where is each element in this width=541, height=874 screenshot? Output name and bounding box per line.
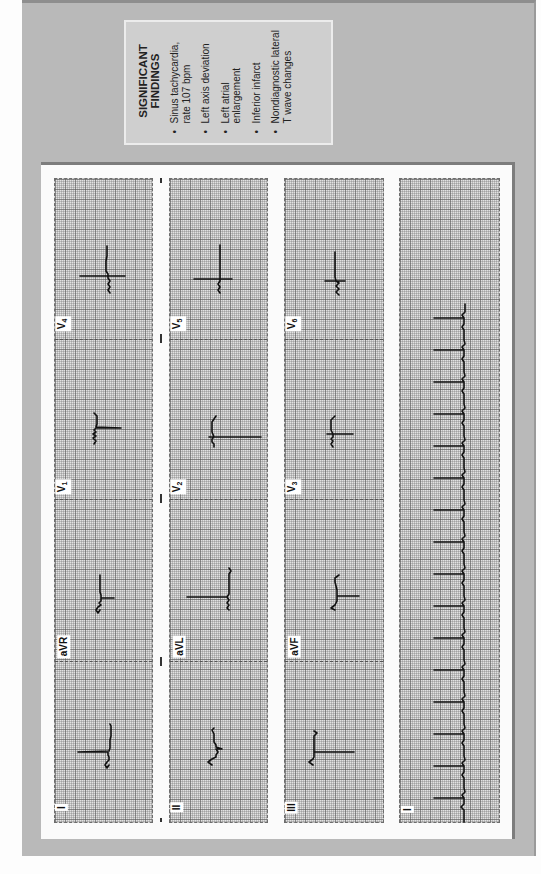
trace-lead-V6 xyxy=(325,252,345,295)
trace-lead-aVR xyxy=(96,575,114,613)
ecg-traces xyxy=(0,0,541,874)
trace-rhythm-I xyxy=(434,304,465,822)
trace-lead-II xyxy=(208,728,222,765)
trace-lead-V1 xyxy=(93,413,121,444)
trace-lead-I xyxy=(78,724,111,768)
trace-lead-aVL xyxy=(187,568,231,610)
trace-lead-V5 xyxy=(194,245,232,293)
trace-lead-V4 xyxy=(80,246,125,293)
trace-lead-V2 xyxy=(209,416,261,447)
trace-lead-V3 xyxy=(327,416,353,447)
trace-lead-aVF xyxy=(331,575,359,610)
trace-lead-III xyxy=(309,731,354,765)
